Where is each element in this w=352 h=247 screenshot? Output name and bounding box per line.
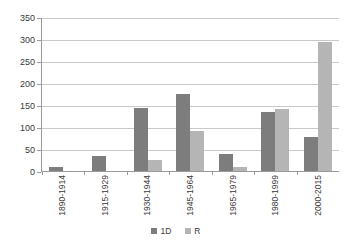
x-axis-label-cell: 1965-1979	[211, 173, 254, 221]
y-axis-tick-label: 350	[20, 13, 35, 23]
y-axis-tick-label: 250	[20, 57, 35, 67]
legend-item-1d[interactable]: 1D	[151, 227, 171, 236]
bar-r-1930-1944	[148, 160, 162, 171]
legend-label: 1D	[160, 227, 171, 236]
bar-group	[169, 18, 211, 171]
y-axis-tick-label: 200	[20, 79, 35, 89]
x-axis-label-cell: 2000-2015	[296, 173, 339, 221]
y-axis-tick-label: 100	[20, 123, 35, 133]
bar-group	[254, 18, 296, 171]
legend-item-r[interactable]: R	[185, 227, 200, 236]
legend-label: R	[194, 227, 200, 236]
y-axis: 350300250200150100500	[0, 0, 38, 247]
bar-1d-1930-1944	[134, 108, 148, 171]
x-axis-label-cell: 1980-1999	[254, 173, 297, 221]
chart-legend: 1DR	[0, 227, 352, 236]
bar-r-1945-1964	[190, 131, 204, 171]
bar-r-2000-2015	[318, 42, 332, 171]
bar-1d-2000-2015	[304, 137, 318, 171]
legend-swatch-icon	[185, 228, 191, 234]
bar-group	[84, 18, 126, 171]
x-axis-tick-label: 1965-1979	[228, 175, 238, 216]
x-axis-tick-label: 1980-1999	[270, 175, 280, 216]
legend-swatch-icon	[151, 228, 157, 234]
x-axis-label-cell: 1930-1944	[126, 173, 169, 221]
x-axis-labels: 1890-19141915-19291930-19441945-19641965…	[41, 173, 339, 221]
x-axis-tick-label: 1930-1944	[142, 175, 152, 216]
x-axis-label-cell: 1890-1914	[41, 173, 84, 221]
bar-1d-1980-1999	[261, 112, 275, 171]
bar-1d-1965-1979	[219, 154, 233, 171]
bar-1d-1890-1914	[49, 167, 63, 171]
bar-group	[212, 18, 254, 171]
bar-group	[297, 18, 339, 171]
x-axis-label-cell: 1945-1964	[169, 173, 212, 221]
bar-chart: 350300250200150100500 1890-19141915-1929…	[0, 0, 352, 247]
bar-groups	[42, 18, 339, 171]
y-axis-tick-label: 300	[20, 35, 35, 45]
bar-1d-1945-1964	[176, 94, 190, 171]
x-axis-label-cell: 1915-1929	[84, 173, 127, 221]
bar-r-1980-1999	[275, 109, 289, 171]
x-axis-tick-label: 1890-1914	[57, 175, 67, 216]
x-axis-tick-label: 1915-1929	[100, 175, 110, 216]
bar-group	[42, 18, 84, 171]
plot-area	[41, 18, 339, 172]
bar-r-1965-1979	[233, 167, 247, 171]
bar-1d-1915-1929	[92, 156, 106, 171]
bar-group	[127, 18, 169, 171]
x-axis-tick-label: 1945-1964	[185, 175, 195, 216]
x-axis-tick-label: 2000-2015	[313, 175, 323, 216]
y-axis-tick-label: 50	[25, 145, 35, 155]
y-axis-tick-label: 0	[30, 167, 35, 177]
y-axis-tick-label: 150	[20, 101, 35, 111]
